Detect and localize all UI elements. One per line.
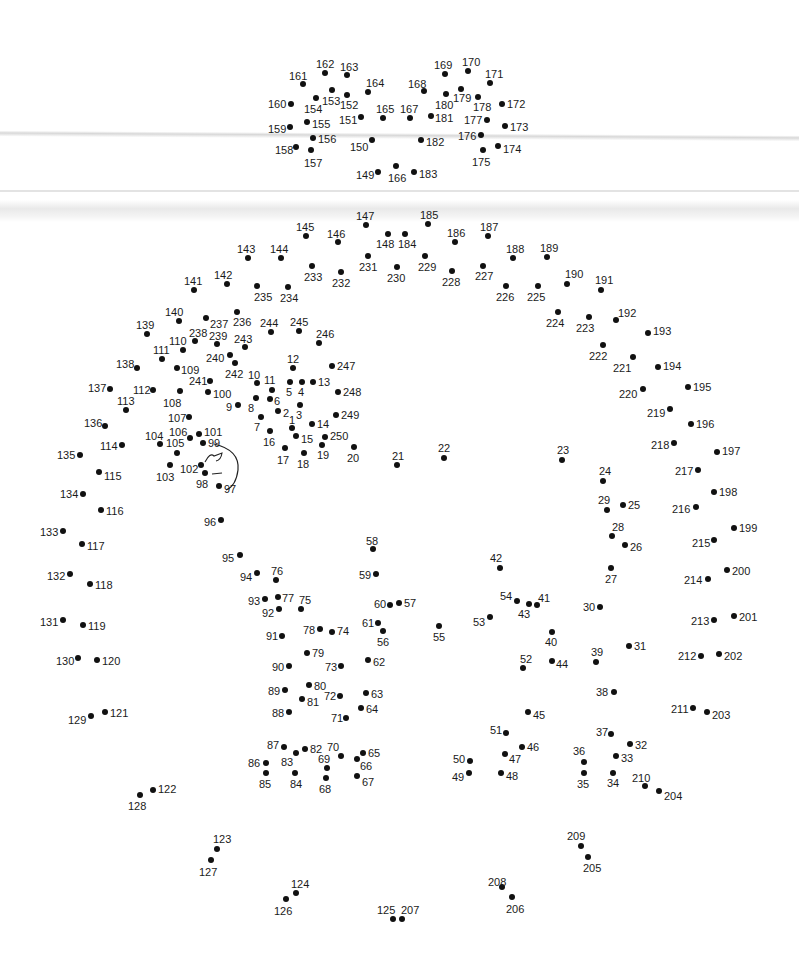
dot-label: 195 <box>693 381 711 393</box>
dot-187 <box>485 233 491 239</box>
dot-235 <box>254 283 260 289</box>
dot-label: 67 <box>362 776 374 788</box>
dot-60 <box>387 602 393 608</box>
dot-label: 134 <box>60 488 78 500</box>
dot-38 <box>611 689 617 695</box>
dot-34 <box>610 770 616 776</box>
dot-label: 122 <box>158 783 176 795</box>
dot-label: 241 <box>189 375 207 387</box>
dot-label: 112 <box>133 384 151 396</box>
dot-155 <box>304 119 310 125</box>
dot-label: 175 <box>472 156 490 168</box>
dot-label: 113 <box>117 395 135 407</box>
dot-74 <box>329 629 335 635</box>
dot-label: 135 <box>57 449 75 461</box>
dot-label: 45 <box>533 709 545 721</box>
dot-label: 218 <box>651 439 669 451</box>
dot-26 <box>622 542 628 548</box>
dot-128 <box>137 792 143 798</box>
dot-112 <box>150 387 156 393</box>
page-shadow-band <box>0 200 799 222</box>
dot-140 <box>176 318 182 324</box>
dot-label: 126 <box>274 905 292 917</box>
dot-79 <box>304 650 310 656</box>
dot-label: 61 <box>362 617 374 629</box>
dot-213 <box>711 617 717 623</box>
dot-176 <box>478 132 484 138</box>
dot-72 <box>337 693 343 699</box>
dot-label: 42 <box>490 552 502 564</box>
dot-label: 46 <box>527 741 539 753</box>
dot-27 <box>608 565 614 571</box>
dot-242 <box>232 360 238 366</box>
dot-label: 237 <box>210 318 228 330</box>
dot-label: 53 <box>473 616 485 628</box>
dot-label: 79 <box>312 647 324 659</box>
dot-label: 176 <box>458 130 476 142</box>
dot-label: 97 <box>224 483 236 495</box>
dot-label: 11 <box>264 374 275 386</box>
dot-61 <box>375 620 381 626</box>
dot-label: 10 <box>248 369 260 381</box>
dot-37 <box>608 731 614 737</box>
dot-label: 172 <box>507 98 525 110</box>
dot-label: 30 <box>583 601 595 613</box>
dot-214 <box>705 576 711 582</box>
dot-label: 110 <box>169 335 187 347</box>
dot-206 <box>509 894 515 900</box>
dot-13 <box>310 379 316 385</box>
dot-49 <box>466 770 472 776</box>
dot-126 <box>283 896 289 902</box>
dot-label: 27 <box>605 573 617 585</box>
dot-label: 145 <box>296 221 314 233</box>
dot-label: 162 <box>316 58 334 70</box>
dot-225 <box>535 283 541 289</box>
dot-103 <box>167 462 173 468</box>
dot-12 <box>290 365 296 371</box>
dot-label: 189 <box>540 242 558 254</box>
dot-label: 250 <box>330 430 348 442</box>
dot-label: 116 <box>106 505 124 517</box>
dot-138 <box>134 365 140 371</box>
dot-89 <box>282 687 288 693</box>
dot-label: 115 <box>104 470 122 482</box>
dot-label: 202 <box>724 650 742 662</box>
dot-241 <box>207 378 213 384</box>
dot-83 <box>293 750 299 756</box>
dot-label: 167 <box>400 103 418 115</box>
dot-143 <box>245 255 251 261</box>
dot-label: 160 <box>268 98 286 110</box>
dot-3 <box>297 402 303 408</box>
dot-label: 203 <box>712 709 730 721</box>
dot-28 <box>609 533 615 539</box>
dot-57 <box>396 600 402 606</box>
dot-234 <box>285 284 291 290</box>
dot-label: 125 <box>377 904 395 916</box>
dot-label: 103 <box>156 471 174 483</box>
dot-215 <box>711 537 717 543</box>
dot-label: 137 <box>88 382 106 394</box>
dot-label: 102 <box>180 463 198 475</box>
dot-35 <box>581 770 587 776</box>
dot-202 <box>716 651 722 657</box>
dot-label: 141 <box>184 275 202 287</box>
dot-21 <box>394 462 400 468</box>
dot-label: 57 <box>404 597 416 609</box>
dot-label: 208 <box>488 876 506 888</box>
dot-195 <box>685 384 691 390</box>
dot-184 <box>402 231 408 237</box>
dot-label: 40 <box>545 636 557 648</box>
dot-127 <box>208 857 214 863</box>
dot-label: 133 <box>40 526 58 538</box>
dot-label: 169 <box>434 59 452 71</box>
dot-53 <box>487 614 493 620</box>
dot-label: 15 <box>301 433 313 445</box>
dot-label: 98 <box>196 478 208 490</box>
dot-label: 139 <box>136 319 154 331</box>
dot-label: 199 <box>739 522 757 534</box>
dot-154 <box>313 95 319 101</box>
dot-191 <box>598 287 604 293</box>
dot-116 <box>98 507 104 513</box>
dot-106 <box>187 435 193 441</box>
dot-113 <box>123 407 129 413</box>
